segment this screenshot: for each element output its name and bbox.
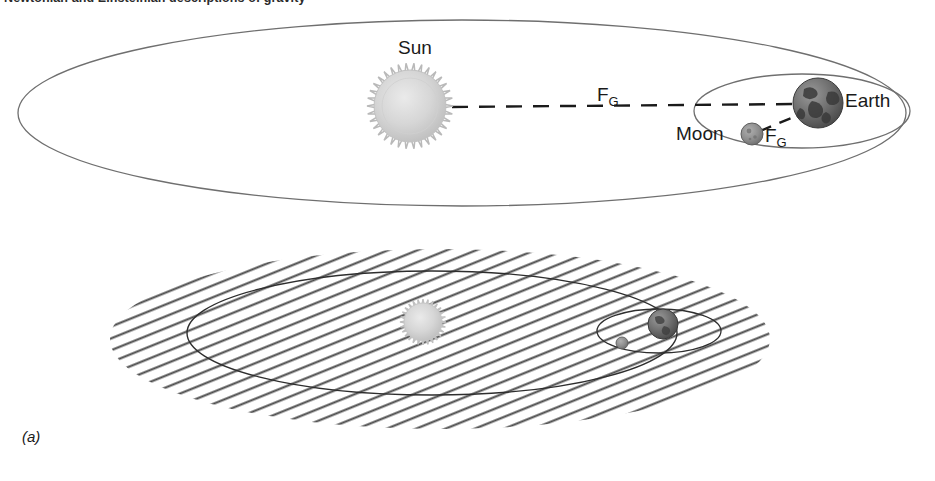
figure-panel-letter: (a)	[22, 428, 40, 445]
label-moon: Moon	[676, 124, 724, 143]
sun-body-top	[374, 70, 446, 142]
force-subscript-moon-earth: G	[777, 135, 787, 150]
force-subscript-sun-earth: G	[609, 94, 619, 109]
force-line-sun-earth	[452, 104, 800, 107]
figure-root: Newtonian and Einsteinian descriptions o…	[0, 0, 935, 481]
earth-body-bottom	[648, 309, 678, 339]
force-symbol-sun-earth: F	[597, 84, 609, 105]
earth-orbit-ellipse-top	[18, 20, 906, 206]
spacetime-sheet	[110, 249, 770, 429]
sun-body-bottom	[404, 303, 442, 341]
force-symbol-moon-earth: F	[765, 125, 777, 146]
figure-canvas	[0, 0, 935, 481]
bottom-panel-spacetime	[110, 249, 770, 429]
label-force-moon-earth: FG	[765, 126, 787, 149]
moon-body-bottom	[616, 337, 628, 349]
label-earth: Earth	[845, 91, 890, 110]
label-sun: Sun	[398, 38, 432, 57]
moon-body-top	[741, 123, 763, 145]
label-force-sun-earth: FG	[597, 85, 619, 108]
top-panel-newtonian	[18, 20, 910, 206]
